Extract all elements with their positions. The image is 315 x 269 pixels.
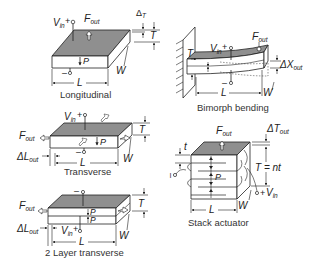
- width-label: W: [238, 200, 249, 211]
- plus-sign: +: [260, 188, 265, 198]
- length-label: L: [221, 87, 227, 98]
- vin-label: Vin: [266, 187, 278, 199]
- force-label: Fout: [84, 12, 101, 25]
- vin-terminal-icon: [255, 191, 258, 194]
- plus-sign: +: [65, 16, 70, 26]
- length-label: L: [209, 204, 215, 215]
- stack-front-face: [191, 155, 237, 199]
- vin-label: Vin: [210, 43, 222, 55]
- thickness-label: T: [138, 198, 145, 209]
- width-label: W: [116, 65, 127, 76]
- minus-sign: –: [76, 147, 81, 157]
- thickness-equation-label: T = nt: [255, 162, 282, 173]
- caption-longitudinal: Longitudinal: [60, 89, 111, 100]
- delta-l-label: ΔLout: [16, 223, 40, 235]
- vin-terminal-icon: [83, 113, 86, 116]
- delta-t-label: ΔT: [136, 8, 147, 19]
- minus-sign: –: [74, 186, 79, 196]
- minus-terminal-icon: [81, 190, 84, 193]
- piezo-actuator-diagram: Vin + Fout P – L W T ΔT Longitudinal: [0, 0, 315, 269]
- force-arrow-left-icon: [40, 135, 49, 141]
- thickness-label: T: [150, 30, 157, 41]
- caption-bimorph-bending: Bimorph bending: [197, 102, 269, 113]
- panel-longitudinal: Vin + Fout P – L W T ΔT Longitudinal: [52, 8, 160, 100]
- force-label: Fout: [19, 129, 36, 142]
- caption-stack-actuator: Stack actuator: [188, 217, 249, 228]
- expansion-arrow-icon: [101, 114, 109, 122]
- plus-sign: +: [77, 110, 82, 120]
- thickness-label: T: [139, 124, 146, 135]
- deflection-label: ΔXout: [279, 59, 304, 71]
- polarization-label: P: [83, 56, 89, 66]
- force-point-icon: [257, 47, 261, 51]
- vin-terminal-icon: [78, 229, 81, 232]
- caption-two-layer-transverse: 2 Layer transverse: [45, 247, 124, 258]
- panel-bimorph-bending: Vin + – Fout T ΔXout L W Bimorph bending: [176, 27, 304, 113]
- panel-two-layer-transverse: – Fout P P Vin + T ΔLout L W: [16, 186, 148, 258]
- minus-terminal-icon: [82, 150, 85, 153]
- panel-transverse: Vin + Fout P – T ΔLout L W: [16, 110, 150, 177]
- width-label: W: [123, 153, 134, 164]
- minus-sign: –: [165, 173, 175, 178]
- vin-label: Vin: [53, 17, 65, 29]
- force-label: Fout: [252, 30, 269, 43]
- polarization-label-bottom: P: [90, 215, 96, 225]
- minus-terminal-icon: [68, 71, 71, 74]
- length-label: L: [79, 236, 85, 247]
- force-arrow-left-icon: [38, 208, 47, 214]
- thickness-label: T: [187, 48, 194, 59]
- polarization-label: P: [100, 137, 106, 147]
- minus-sign: –: [62, 68, 67, 78]
- vin-terminal-icon: [71, 20, 75, 24]
- width-label: W: [119, 230, 130, 241]
- layer-thickness-label: t: [184, 141, 188, 152]
- force-label: Fout: [216, 124, 233, 137]
- delta-l-label: ΔLout: [16, 151, 40, 163]
- delta-t-label: ΔTout: [266, 123, 290, 135]
- plus-sign: +: [73, 224, 78, 234]
- panel-stack-actuator: P Fout ΔTout T = nt t – + Vin L: [165, 123, 290, 228]
- force-label: Fout: [19, 199, 36, 212]
- caption-transverse: Transverse: [64, 166, 111, 177]
- polarization-label: P: [215, 172, 221, 182]
- vin-label: Vin: [61, 225, 73, 237]
- minus-terminal-icon: [229, 81, 232, 84]
- vin-terminal-icon: [229, 46, 232, 49]
- length-label: L: [77, 77, 83, 88]
- plus-sign: +: [222, 42, 227, 52]
- vin-label: Vin: [64, 111, 76, 123]
